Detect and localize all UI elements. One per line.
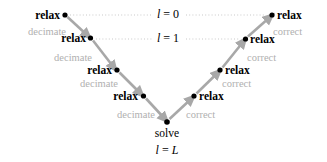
relax-label-left-2: relax [87,65,112,77]
level-label-1: l = 1 [157,32,179,44]
correct-label-0: correct [273,27,302,38]
relax-label-right-0: relax [277,10,302,22]
level-value-L: L [172,143,179,157]
node-dot-solve [164,119,170,125]
node-dot-left-3 [141,93,146,98]
level-label-L: l = L [156,144,179,156]
decimate-label-0: decimate [28,27,66,38]
decimate-label-2: decimate [80,79,118,90]
relax-label-right-2: relax [225,65,250,77]
node-dot-left-0 [62,12,67,17]
decimate-label-1: decimate [54,53,92,64]
node-dot-right-2 [217,67,222,72]
node-dot-left-1 [88,35,93,40]
node-dot-right-3 [191,93,196,98]
correct-label-1: correct [247,53,276,64]
correct-label-3: correct [186,110,215,121]
node-dot-right-1 [243,36,248,41]
node-dot-right-0 [269,12,274,17]
solve-label: solve [155,128,179,140]
level-value-1: 1 [173,31,179,45]
level-label-0: l = 0 [157,8,179,20]
relax-label-right-1: relax [250,34,275,46]
relax-label-left-3: relax [113,91,138,103]
multigrid-v-cycle-diagram: relax relax relax relax decimate decimat… [0,0,327,162]
relax-label-right-3: relax [199,91,224,103]
level-value-0: 0 [173,7,179,21]
correct-label-2: correct [222,79,251,90]
relax-label-left-0: relax [35,10,60,22]
decimate-label-3: decimate [117,110,155,121]
node-dot-left-2 [114,67,119,72]
